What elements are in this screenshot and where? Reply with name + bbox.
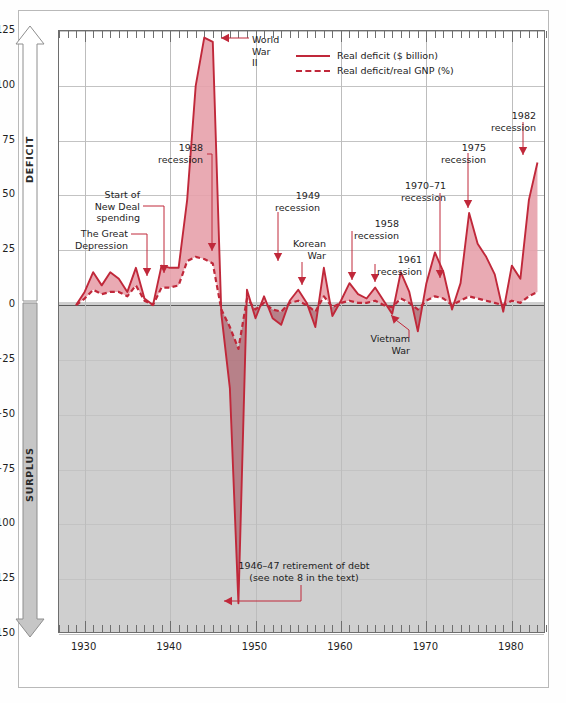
legend-entry-real-deficit: Real deficit ($ billion) bbox=[296, 48, 454, 63]
legend-swatch-solid-line bbox=[296, 55, 330, 57]
x-tick-label: 1970 bbox=[395, 641, 455, 652]
x-tick-label: 1940 bbox=[139, 641, 199, 652]
x-tick-label: 1980 bbox=[481, 641, 541, 652]
x-tick-label: 1950 bbox=[225, 641, 285, 652]
annotation-recession-1958: 1958 recession bbox=[341, 218, 399, 241]
annotation-vietnam-war: Vietnam War bbox=[362, 333, 410, 356]
y-tick-label: −25 bbox=[0, 353, 15, 364]
annotation-recession-1975: 1975 recession bbox=[428, 142, 486, 165]
annotation-recession-1961: 1961 recession bbox=[364, 254, 422, 277]
annotation-world-war-ii: World War II bbox=[252, 34, 292, 69]
x-tick-label: 1960 bbox=[310, 641, 370, 652]
series-overlay bbox=[59, 31, 546, 634]
annotation-recession-1938: 1938 recession bbox=[145, 142, 203, 165]
y-tick-label: −150 bbox=[0, 627, 15, 638]
plot-area bbox=[58, 30, 545, 633]
legend: Real deficit ($ billion) Real deficit/re… bbox=[296, 48, 454, 78]
annotation-new-deal: Start of New Deal spending bbox=[74, 189, 140, 224]
x-tick-label: 1930 bbox=[54, 641, 114, 652]
band-fill-deficit bbox=[76, 38, 537, 604]
y-tick-label: 25 bbox=[0, 243, 15, 254]
y-tick-label: 100 bbox=[0, 79, 15, 90]
legend-swatch-dashed-line bbox=[296, 70, 330, 72]
annotation-recession-1982: 1982 recession bbox=[478, 110, 536, 133]
band-fill-surplus bbox=[76, 38, 537, 604]
y-tick-label: −125 bbox=[0, 572, 15, 583]
annotation-korean-war: Korean War bbox=[278, 238, 326, 261]
annotation-great-depression: The Great Depression bbox=[62, 228, 128, 251]
legend-entry-deficit-gnp: Real deficit/real GNP (%) bbox=[296, 63, 454, 78]
y-tick-label: −50 bbox=[0, 408, 15, 419]
tick-top-1984 bbox=[546, 31, 547, 38]
annotation-recession-1970-71: 1970–71 recession bbox=[384, 180, 446, 203]
y-tick-label: 0 bbox=[0, 298, 15, 309]
y-tick-label: −100 bbox=[0, 517, 15, 528]
legend-label-real-deficit: Real deficit ($ billion) bbox=[337, 50, 438, 61]
y-tick-label: 50 bbox=[0, 188, 15, 199]
tick-bottom-1984 bbox=[546, 625, 547, 632]
gridline-y--150 bbox=[59, 634, 544, 635]
figure-root: DEFICIT SURPLUS 1251007550250−25−50−75−1… bbox=[0, 0, 566, 703]
series-line-real-deficit bbox=[76, 38, 537, 604]
annotation-recession-1949: 1949 recession bbox=[262, 190, 320, 213]
y-tick-label: −75 bbox=[0, 463, 15, 474]
legend-label-deficit-gnp: Real deficit/real GNP (%) bbox=[337, 65, 454, 76]
surplus-axis-label: SURPLUS bbox=[24, 420, 36, 530]
y-tick-label: 125 bbox=[0, 24, 15, 35]
y-tick-label: 75 bbox=[0, 134, 15, 145]
annotation-retirement-of-debt: 1946–47 retirement of debt (see note 8 i… bbox=[196, 560, 412, 583]
deficit-axis-label: DEFICIT bbox=[24, 105, 36, 215]
